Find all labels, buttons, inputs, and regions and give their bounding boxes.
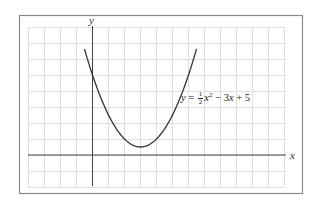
figure-frame [20, 16, 303, 194]
x-axis-label: x [290, 150, 295, 161]
graph-figure [0, 0, 315, 202]
eq-fraction: 12 [198, 91, 204, 106]
eq-tail: + 5 [234, 92, 250, 103]
eq-frac-den: 2 [198, 99, 204, 106]
eq-equals: = [188, 92, 194, 103]
y-axis-label: y [89, 15, 94, 26]
equation-label: y = 12x2 − 3x + 5 [181, 91, 250, 106]
eq-rest: − 3 [213, 92, 229, 103]
eq-lhs: y [181, 92, 186, 103]
